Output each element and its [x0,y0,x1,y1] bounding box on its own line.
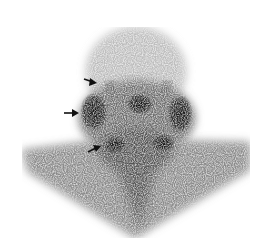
parotid-left [80,92,108,132]
oral-cavity-uptake [126,93,154,115]
submandibular-left [103,136,127,154]
scintigraphy-image [0,0,264,251]
arrow-middle-icon [64,109,79,117]
parotid-right [167,94,193,134]
submandibular-right [151,134,175,152]
